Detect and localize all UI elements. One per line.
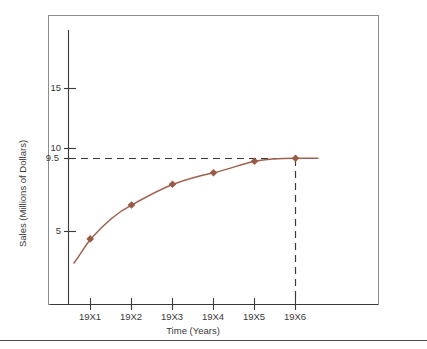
x-tick-label-19x6: 19X6 bbox=[273, 312, 317, 322]
x-tick-label-19x2: 19X2 bbox=[109, 312, 153, 322]
x-tick-label-19x1: 19X1 bbox=[68, 312, 112, 322]
page-divider-rule bbox=[0, 340, 427, 341]
figure-frame bbox=[48, 15, 379, 305]
y-tick-label-9-5: 9.5 bbox=[31, 153, 59, 163]
y-tick-label-15: 15 bbox=[33, 83, 61, 93]
x-tick-label-19x4: 19X4 bbox=[191, 312, 235, 322]
y-axis-title: Sales (Millions of Dollars) bbox=[17, 129, 28, 259]
x-axis-title: Time (Years) bbox=[128, 325, 258, 336]
x-tick-label-19x3: 19X3 bbox=[150, 312, 194, 322]
y-tick-label-5: 5 bbox=[33, 226, 61, 236]
x-tick-label-19x5: 19X5 bbox=[232, 312, 276, 322]
